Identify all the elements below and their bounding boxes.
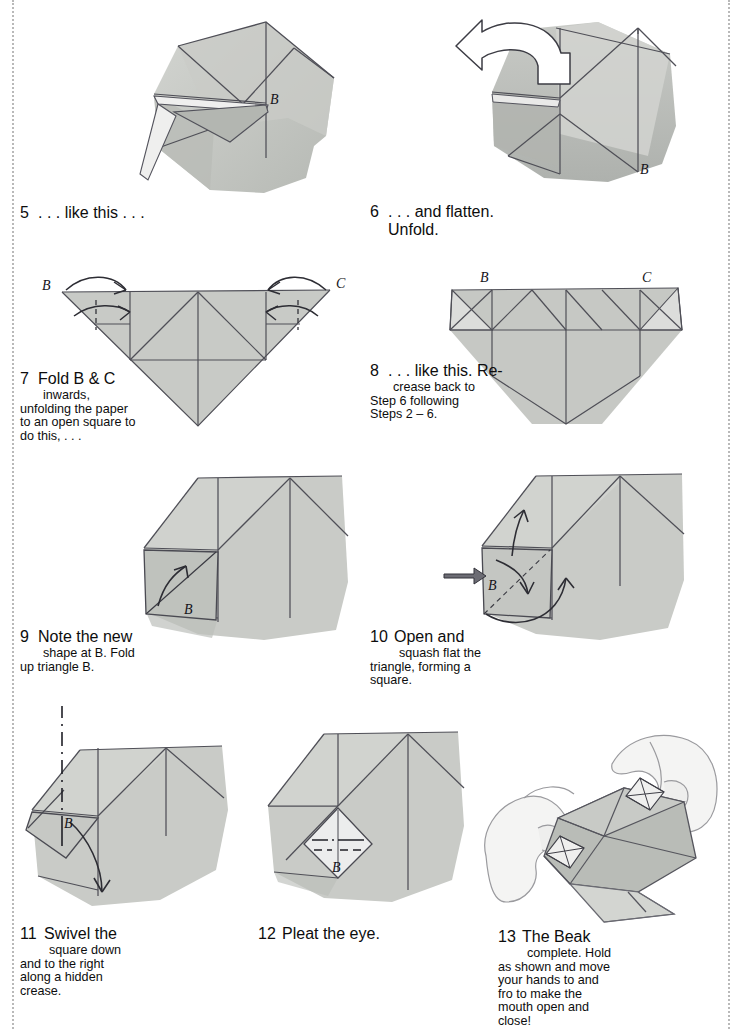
page-margin-rule-left (12, 0, 14, 1029)
diagram-label-B: B (184, 602, 193, 617)
step11-diagram: B (20, 700, 270, 925)
step5-first-line: . . . like this . . . (38, 204, 145, 222)
step10-line-4: square. (370, 674, 555, 688)
step13-line-7: close! (498, 1015, 688, 1029)
step7-line-5: do this, . . . (20, 430, 195, 444)
step-number-7: 7 (20, 370, 33, 389)
step11-line-5: crease. (20, 985, 190, 999)
step11-first-line: Swivel the (44, 925, 117, 943)
step13-first-line: The Beak (522, 928, 590, 946)
step-number-8: 8 (370, 362, 383, 381)
step11-caption: 11 Swivel the square down and to the rig… (20, 925, 190, 998)
step8-line-4: Steps 2 – 6. (370, 408, 550, 422)
step-number-12: 12 (258, 925, 277, 944)
step10-line-3: triangle, forming a (370, 661, 555, 675)
step12-diagram: B (258, 722, 503, 917)
diagram-label-B: B (332, 860, 341, 875)
step-number-6: 6 (370, 203, 383, 222)
step7-first-line: Fold B & C (38, 370, 115, 388)
step9-line-3: up triangle B. (20, 661, 190, 675)
step5-caption: 5 . . . like this . . . (20, 204, 220, 223)
step12-first-line: Pleat the eye. (282, 925, 380, 943)
step-number-5: 5 (20, 204, 33, 223)
page-margin-rule-right (728, 0, 730, 1029)
step13-line-2: complete. Hold (527, 947, 688, 961)
step-number-9: 9 (20, 628, 33, 647)
diagram-label-C: C (642, 270, 652, 285)
step6-first-line: . . . and flatten. (388, 203, 494, 221)
step-number-13: 13 (498, 928, 517, 947)
step13-line-4: your hands to and (498, 974, 688, 988)
step10-caption: 10 Open and squash flat the triangle, fo… (370, 628, 555, 688)
step8-first-line: . . . like this. Re- (388, 362, 503, 380)
diagram-label-B: B (640, 162, 649, 177)
diagram-label-B: B (488, 578, 497, 593)
step13-caption: 13 The Beak complete. Hold as shown and … (498, 928, 688, 1029)
step7-line-3: unfolding the paper (20, 403, 195, 417)
step11-line-2: square down (49, 944, 190, 958)
step7-line-4: to an open square to (20, 416, 195, 430)
step9-diagram: B (112, 462, 362, 647)
push-in-arrow (444, 568, 486, 584)
step13-line-6: mouth open and (498, 1001, 688, 1015)
step10-diagram: B (440, 462, 710, 647)
step8-line-3: Step 6 following (370, 395, 550, 409)
step10-first-line: Open and (394, 628, 464, 646)
step9-first-line: Note the new (38, 628, 132, 646)
step11-line-3: and to the right (20, 958, 190, 972)
step6-caption: 6 . . . and flatten. Unfold. (370, 203, 570, 239)
step5-diagram: B (118, 8, 358, 208)
step7-caption: 7 Fold B & C inwards, unfolding the pape… (20, 370, 195, 443)
step11-line-4: along a hidden (20, 971, 190, 985)
step13-line-5: fro to make the (498, 988, 688, 1002)
step9-caption: 9 Note the new shape at B. Fold up trian… (20, 628, 190, 674)
step13-diagram (478, 706, 728, 931)
step8-caption: 8 . . . like this. Re- crease back to St… (370, 362, 550, 422)
step-number-10: 10 (370, 628, 389, 647)
step6-diagram: B (448, 6, 698, 206)
step10-line-2: squash flat the (399, 647, 555, 661)
diagram-label-B: B (270, 92, 279, 107)
step12-caption: 12 Pleat the eye. (258, 925, 438, 944)
step13-line-3: as shown and move (498, 961, 688, 975)
instruction-page: B 5 . . . like this . . . (0, 0, 741, 1029)
diagram-label-C: C (336, 276, 346, 291)
step6-line-2: Unfold. (388, 221, 494, 239)
step7-line-2: inwards, (43, 389, 195, 403)
diagram-label-B: B (64, 816, 73, 831)
diagram-label-B: B (480, 270, 489, 285)
step8-line-2: crease back to (393, 381, 550, 395)
step9-line-2: shape at B. Fold (43, 647, 190, 661)
step-number-11: 11 (20, 925, 39, 944)
diagram-label-B: B (42, 278, 51, 293)
